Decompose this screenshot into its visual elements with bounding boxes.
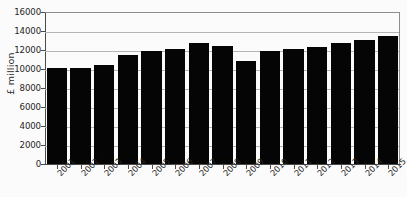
y-axis-tick-label: 2000 bbox=[20, 140, 41, 150]
x-axis-tick-mark bbox=[317, 165, 318, 169]
x-axis-tick-mark bbox=[104, 165, 105, 169]
x-axis-tick-mark bbox=[341, 165, 342, 169]
y-axis-tick-label: 6000 bbox=[20, 102, 41, 112]
y-axis-tick-label: 16000 bbox=[14, 7, 41, 17]
y-axis-tick-label: 8000 bbox=[20, 83, 41, 93]
y-axis-tick-mark bbox=[41, 88, 45, 89]
y-axis-tick-labels: 0200040006000800010000120001400016000 bbox=[0, 0, 44, 197]
y-axis-tick-mark bbox=[41, 69, 45, 70]
bar-2010 bbox=[260, 51, 280, 164]
bars-series bbox=[45, 13, 399, 164]
bar-chart-figure: £ million 020004000600080001000012000140… bbox=[0, 0, 407, 197]
x-axis-tick-mark bbox=[270, 165, 271, 169]
x-axis-tick-mark bbox=[199, 165, 200, 169]
x-axis-tick-mark bbox=[223, 165, 224, 169]
bar-2012 bbox=[307, 47, 327, 164]
y-axis-tick-label: 14000 bbox=[14, 26, 41, 36]
x-axis-tick-mark bbox=[365, 165, 366, 169]
bar-2002 bbox=[70, 68, 90, 164]
bar-2003 bbox=[94, 65, 114, 164]
x-axis-tick-mark bbox=[246, 165, 247, 169]
bar-2011 bbox=[283, 49, 303, 164]
y-axis-tick-mark bbox=[41, 31, 45, 32]
bar-2015 bbox=[378, 36, 398, 164]
y-axis-tick-mark bbox=[41, 126, 45, 127]
y-axis-tick-mark bbox=[41, 145, 45, 146]
bar-2008 bbox=[212, 46, 232, 164]
y-axis-tick-mark bbox=[41, 12, 45, 13]
x-axis-tick-mark bbox=[175, 165, 176, 169]
x-axis-tick-mark bbox=[81, 165, 82, 169]
x-axis-tick-mark bbox=[388, 165, 389, 169]
bar-2013 bbox=[331, 43, 351, 164]
y-axis-tick-mark bbox=[41, 50, 45, 51]
bar-2006 bbox=[165, 49, 185, 164]
y-axis-tick-label: 10000 bbox=[14, 64, 41, 74]
y-axis-tick-label: 4000 bbox=[20, 121, 41, 131]
y-axis-tick-label: 12000 bbox=[14, 45, 41, 55]
x-axis-tick-mark bbox=[57, 165, 58, 169]
plot-area bbox=[45, 12, 400, 164]
bar-2009 bbox=[236, 61, 256, 164]
bar-2007 bbox=[189, 43, 209, 164]
bar-2004 bbox=[118, 55, 138, 164]
x-axis-tick-mark bbox=[294, 165, 295, 169]
x-axis-tick-mark bbox=[128, 165, 129, 169]
x-axis-tick-mark bbox=[152, 165, 153, 169]
bar-2005 bbox=[141, 51, 161, 164]
bar-2001 bbox=[47, 68, 67, 164]
bar-2014 bbox=[354, 40, 374, 164]
y-axis-tick-mark bbox=[41, 164, 45, 165]
y-axis-tick-mark bbox=[41, 107, 45, 108]
